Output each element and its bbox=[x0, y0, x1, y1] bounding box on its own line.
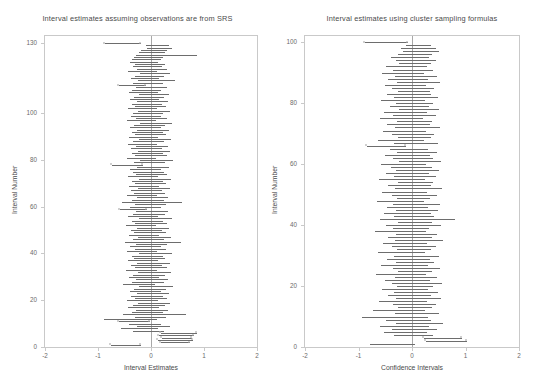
confidence-interval-segment bbox=[133, 141, 164, 142]
confidence-interval-segment bbox=[162, 338, 193, 339]
confidence-interval-segment bbox=[128, 176, 159, 177]
x-axis-tick-label: -1 bbox=[88, 352, 108, 359]
confidence-interval-segment bbox=[139, 179, 171, 180]
confidence-interval-segment bbox=[135, 134, 166, 135]
x-axis-tick-label: 1 bbox=[456, 352, 476, 359]
confidence-interval-segment bbox=[396, 103, 433, 104]
confidence-interval-segment bbox=[398, 182, 433, 183]
confidence-interval-segment bbox=[134, 125, 165, 126]
confidence-interval-segment bbox=[137, 101, 168, 102]
confidence-interval-segment bbox=[398, 91, 430, 92]
y-axis-tick-label: 20 bbox=[15, 296, 37, 303]
panel-cluster: Interval estimates using cluster samplin… bbox=[275, 0, 549, 387]
x-axis-tick bbox=[466, 347, 467, 351]
confidence-interval-segment bbox=[424, 338, 463, 339]
confidence-interval-segment bbox=[398, 307, 432, 308]
confidence-interval-segment bbox=[136, 211, 168, 212]
x-axis-tick-label: 2 bbox=[509, 352, 529, 359]
confidence-interval-segment bbox=[395, 76, 437, 77]
confidence-interval-segment bbox=[134, 97, 164, 98]
confidence-interval-segment bbox=[147, 48, 172, 49]
confidence-interval-segment bbox=[139, 52, 164, 53]
confidence-interval-segment bbox=[135, 298, 167, 299]
confidence-interval-segment bbox=[393, 268, 440, 269]
confidence-interval-segment bbox=[138, 151, 170, 152]
confidence-interval-segment bbox=[139, 218, 172, 219]
confidence-interval-segment bbox=[133, 239, 164, 240]
panel-title-cluster: Interval estimates using cluster samplin… bbox=[275, 14, 549, 23]
non-covering-interval-marker bbox=[159, 341, 161, 343]
confidence-interval-segment bbox=[384, 332, 427, 333]
x-axis-tick bbox=[45, 347, 46, 351]
confidence-interval-segment bbox=[397, 286, 433, 287]
panel-title-srs: Interval estimates assuming observations… bbox=[0, 14, 275, 23]
y-axis-tick-label: 100 bbox=[275, 38, 297, 45]
confidence-interval-segment bbox=[390, 106, 430, 107]
x-axis-tick bbox=[359, 347, 360, 351]
confidence-interval-segment bbox=[136, 279, 168, 280]
confidence-interval-segment bbox=[127, 251, 158, 252]
confidence-interval-segment bbox=[381, 164, 426, 165]
plot-area-srs bbox=[45, 36, 257, 347]
confidence-interval-segment bbox=[133, 275, 165, 276]
confidence-interval-segment bbox=[122, 202, 181, 203]
confidence-interval-segment bbox=[137, 293, 169, 294]
confidence-interval-segment bbox=[393, 228, 429, 229]
confidence-interval-segment bbox=[119, 85, 146, 86]
confidence-interval-segment bbox=[132, 221, 163, 222]
confidence-interval-segment bbox=[130, 127, 161, 128]
confidence-interval-segment bbox=[397, 152, 437, 153]
y-axis-tick bbox=[41, 253, 45, 254]
confidence-interval-segment bbox=[132, 200, 164, 201]
confidence-interval-segment bbox=[385, 155, 430, 156]
confidence-interval-segment bbox=[105, 43, 141, 44]
x-axis-tick-label: -2 bbox=[35, 352, 55, 359]
confidence-interval-segment bbox=[394, 216, 435, 217]
confidence-interval-segment bbox=[387, 94, 431, 95]
confidence-interval-segment bbox=[135, 106, 166, 107]
confidence-interval-segment bbox=[135, 76, 164, 77]
confidence-interval-segment bbox=[396, 323, 443, 324]
confidence-interval-segment bbox=[375, 231, 426, 232]
confidence-interval-segment bbox=[136, 174, 167, 175]
confidence-interval-segment bbox=[128, 216, 159, 217]
confidence-interval-segment bbox=[123, 284, 155, 285]
confidence-interval-segment bbox=[134, 258, 165, 259]
confidence-interval-segment bbox=[378, 252, 425, 253]
panel-srs: Interval estimates assuming observations… bbox=[0, 0, 275, 387]
x-axis-tick bbox=[204, 347, 205, 351]
confidence-interval-segment bbox=[136, 244, 167, 245]
confidence-interval-segment bbox=[362, 317, 428, 318]
y-axis-tick-label: 20 bbox=[275, 282, 297, 289]
y-axis-tick-label: 100 bbox=[15, 109, 37, 116]
confidence-interval-segment bbox=[126, 270, 158, 271]
non-covering-interval-marker bbox=[404, 144, 406, 146]
confidence-interval-segment bbox=[388, 295, 431, 296]
confidence-interval-segment bbox=[386, 173, 429, 174]
non-covering-interval-marker bbox=[117, 320, 119, 322]
confidence-interval-segment bbox=[136, 87, 167, 88]
confidence-interval-segment bbox=[396, 210, 438, 211]
confidence-interval-segment bbox=[135, 204, 166, 205]
confidence-interval-segment bbox=[133, 172, 164, 173]
confidence-interval-segment bbox=[136, 55, 196, 56]
non-covering-interval-marker bbox=[406, 41, 408, 43]
confidence-interval-segment bbox=[130, 62, 159, 63]
confidence-interval-segment bbox=[129, 324, 161, 325]
confidence-interval-segment bbox=[378, 140, 424, 141]
confidence-interval-segment bbox=[137, 228, 169, 229]
confidence-interval-segment bbox=[138, 188, 170, 189]
non-covering-interval-marker bbox=[117, 84, 119, 86]
confidence-interval-segment bbox=[394, 176, 436, 177]
confidence-interval-segment bbox=[134, 289, 166, 290]
confidence-interval-segment bbox=[387, 207, 428, 208]
y-axis-tick-label: 40 bbox=[15, 249, 37, 256]
confidence-interval-segment bbox=[386, 225, 441, 226]
confidence-interval-segment bbox=[380, 219, 455, 220]
confidence-interval-segment bbox=[398, 54, 432, 55]
confidence-interval-segment bbox=[129, 137, 159, 138]
confidence-interval-segment bbox=[397, 249, 431, 250]
confidence-interval-segment bbox=[132, 153, 163, 154]
confidence-interval-segment bbox=[392, 329, 437, 330]
confidence-interval-segment bbox=[140, 73, 170, 74]
